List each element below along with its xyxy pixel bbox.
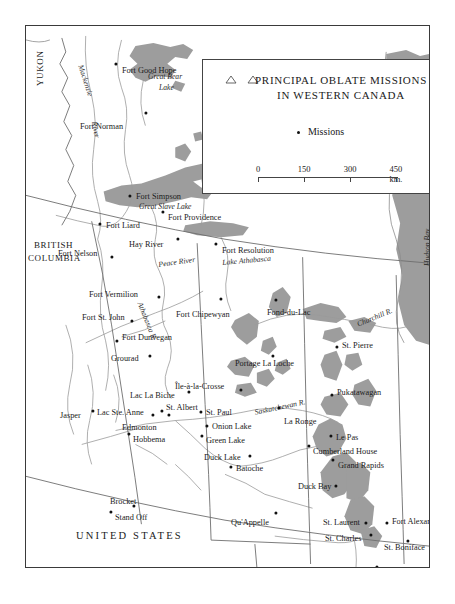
place-label-st-laurent[interactable]: St. Laurent xyxy=(323,519,360,527)
place-label-fort-nelson[interactable]: Fort Nelson xyxy=(58,250,97,258)
place-label-fort-chipewyan[interactable]: Fort Chipewyan xyxy=(176,311,230,319)
mission-dot-pembina[interactable] xyxy=(375,565,378,568)
scale-tick-300 xyxy=(350,177,351,182)
place-label-st-paul[interactable]: St. Paul xyxy=(206,409,232,417)
place-label-fort-dunvegan[interactable]: Fort Dunvegan xyxy=(122,334,172,342)
scale-bar-graphic xyxy=(258,177,398,185)
place-label-fort-resolution[interactable]: Fort Resolution xyxy=(222,247,274,255)
place-label-fort-good-hope[interactable]: Fort Good Hope xyxy=(122,67,176,75)
place-label-le-pas[interactable]: Le Pas xyxy=(336,434,358,442)
water-label-lake: Lake xyxy=(159,84,174,92)
place-label-la-ronge[interactable]: La Ronge xyxy=(284,418,317,426)
place-label-stand-off[interactable]: Stand Off xyxy=(115,514,147,522)
place-label-fort-vermilion[interactable]: Fort Vermilion xyxy=(89,291,138,299)
place-label-batoche[interactable]: Batoche xyxy=(236,465,263,473)
place-label-ile-a-la-crosse[interactable]: Île-à-la-Crosse xyxy=(175,383,224,391)
place-label-fort-simpson[interactable]: Fort Simpson xyxy=(136,193,181,201)
legend-title-line-2: IN WESTERN CANADA xyxy=(241,88,430,103)
place-label-edmonton[interactable]: Edmonton xyxy=(122,424,157,432)
place-label-st-pierre[interactable]: St. Pierre xyxy=(342,342,373,350)
place-label-hay-river[interactable]: Hay River xyxy=(129,241,163,249)
scale-label-1: 150 xyxy=(298,164,311,174)
scale-label-0: 0 xyxy=(256,164,260,174)
place-label-green-lake[interactable]: Green Lake xyxy=(206,437,245,445)
place-label-fort-st-john[interactable]: Fort St. John xyxy=(82,314,125,322)
map-frame: YUKONBRITISHCOLUMBIAUNITED STATES Macken… xyxy=(25,25,430,568)
place-label-grand-rapids[interactable]: Grand Rapids xyxy=(338,462,384,470)
water-label-great-slave-lake: Great Slave Lake xyxy=(139,203,191,211)
place-label-st-albert[interactable]: St. Albert xyxy=(166,404,198,412)
legend-symbol-label: Missions xyxy=(203,126,430,137)
water-label-hudson-bay: Hudson Bay xyxy=(424,229,430,266)
map-legend: PRINCIPAL OBLATE MISSIONS IN WESTERN CAN… xyxy=(202,59,430,194)
place-label-fort-alexander[interactable]: Fort Alexander xyxy=(392,518,430,526)
place-label-lac-la-biche[interactable]: Lac La Biche xyxy=(130,392,175,400)
place-label-portage-la-loche[interactable]: Portage La Loche xyxy=(235,360,294,368)
place-label-hobbema[interactable]: Hobbema xyxy=(133,436,165,444)
place-label-pukatawagan[interactable]: Pukatawagan xyxy=(337,389,381,397)
region-label-united-states: UNITED STATES xyxy=(76,531,183,542)
scale-line xyxy=(258,177,398,178)
place-label-lac-ste-anne[interactable]: Lac Ste. Anne xyxy=(97,409,144,417)
place-label-fort-norman[interactable]: Fort Norman xyxy=(80,123,123,131)
place-label-qu-appelle[interactable]: Qu'Appelle xyxy=(231,519,269,527)
scale-label-2: 300 xyxy=(344,164,357,174)
scale-tick-450 xyxy=(396,177,397,182)
place-label-onion-lake[interactable]: Onion Lake xyxy=(212,423,251,431)
place-label-st-boniface[interactable]: St. Boniface xyxy=(384,544,425,552)
scale-tick-150 xyxy=(304,177,305,182)
map-page: YUKONBRITISHCOLUMBIAUNITED STATES Macken… xyxy=(0,0,455,604)
place-label-duck-lake[interactable]: Duck Lake xyxy=(204,454,241,462)
scale-tick-labels: 0150300450 km. xyxy=(258,164,398,176)
place-label-jasper[interactable]: Jasper xyxy=(60,412,81,420)
scale-bar: 0150300450 km. xyxy=(258,164,398,185)
place-label-cumberland-house[interactable]: Cumberland House xyxy=(313,448,377,456)
legend-title: PRINCIPAL OBLATE MISSIONS IN WESTERN CAN… xyxy=(203,73,430,103)
region-label-yukon: YUKON xyxy=(36,51,45,87)
place-label-brocket[interactable]: Brocket xyxy=(110,498,136,506)
scale-tick-0 xyxy=(258,177,259,182)
place-label-st-charles[interactable]: St. Charles xyxy=(325,535,361,543)
place-label-grourad[interactable]: Grourad xyxy=(111,355,139,363)
place-label-fort-liard[interactable]: Fort Liard xyxy=(106,222,140,230)
place-label-fond-du-lac[interactable]: Fond-du-Lac xyxy=(267,309,310,317)
place-label-duck-bay[interactable]: Duck Bay xyxy=(298,483,331,491)
place-label-fort-providence[interactable]: Fort Providence xyxy=(168,214,221,222)
legend-title-line-1: PRINCIPAL OBLATE MISSIONS xyxy=(241,73,430,88)
